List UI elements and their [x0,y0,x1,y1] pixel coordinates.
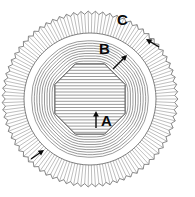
technical-diagram: A B C [0,0,195,197]
label-a: A [101,113,112,128]
label-c: C [117,12,128,27]
label-b: B [99,41,110,56]
cross-section-drawing [0,0,195,197]
core-outline [55,64,125,134]
